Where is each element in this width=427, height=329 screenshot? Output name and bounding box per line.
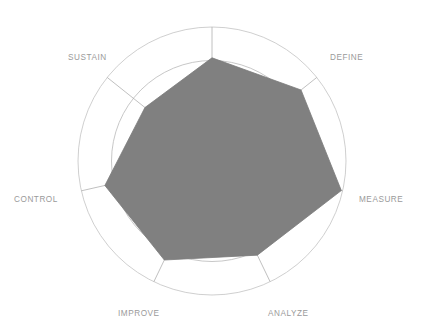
axis-label-control: CONTROL (14, 195, 58, 204)
axis-label-improve: IMPROVE (118, 309, 160, 318)
radar-chart-container: SUSTAIN DEFINE MEASURE ANALYZE IMPROVE C… (0, 0, 427, 329)
axis-label-sustain: SUSTAIN (68, 53, 107, 62)
axis-label-analyze: ANALYZE (268, 309, 309, 318)
axis-label-measure: MEASURE (359, 195, 403, 204)
axis-label-define: DEFINE (330, 53, 363, 62)
radar-chart-svg: SUSTAIN DEFINE MEASURE ANALYZE IMPROVE C… (0, 0, 427, 329)
series-area-assessment (105, 58, 341, 260)
